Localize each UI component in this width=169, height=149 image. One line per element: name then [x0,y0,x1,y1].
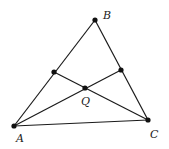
label-c: C [150,128,159,141]
triangle-diagram: B Q A C [0,0,169,149]
label-q: Q [81,95,90,108]
cevian-cd [54,72,148,120]
label-a: A [15,132,24,145]
side-ac [14,120,148,126]
point-e [118,67,123,72]
point-a [11,123,16,128]
point-q [82,85,87,90]
point-d [51,69,56,74]
point-c [145,117,150,122]
label-b: B [102,9,111,22]
point-b [92,17,97,22]
